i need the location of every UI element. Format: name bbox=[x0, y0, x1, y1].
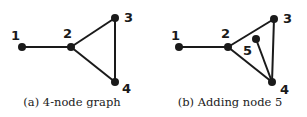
graph-a: 1234 bbox=[11, 10, 133, 96]
caption-a: (a) 4-node graph bbox=[23, 95, 120, 109]
graph-b: 12345 bbox=[171, 11, 292, 97]
edge-2-3 bbox=[71, 18, 115, 47]
node-3 bbox=[111, 14, 119, 22]
node-label-3: 3 bbox=[283, 11, 292, 26]
node-4 bbox=[268, 78, 276, 86]
node-5 bbox=[252, 35, 260, 43]
node-2 bbox=[224, 43, 232, 51]
node-label-3: 3 bbox=[124, 10, 133, 25]
node-label-1: 1 bbox=[171, 28, 180, 43]
node-1 bbox=[18, 43, 26, 51]
node-label-2: 2 bbox=[63, 26, 72, 41]
caption-b: (b) Adding node 5 bbox=[178, 95, 283, 109]
edge-2-4 bbox=[71, 47, 115, 82]
node-label-1: 1 bbox=[11, 28, 20, 43]
node-label-5: 5 bbox=[243, 43, 252, 58]
node-3 bbox=[270, 15, 278, 23]
node-label-4: 4 bbox=[122, 81, 131, 96]
node-1 bbox=[175, 43, 183, 51]
node-4 bbox=[111, 78, 119, 86]
node-label-2: 2 bbox=[221, 26, 230, 41]
node-2 bbox=[67, 43, 75, 51]
edge-3-4 bbox=[272, 19, 274, 82]
